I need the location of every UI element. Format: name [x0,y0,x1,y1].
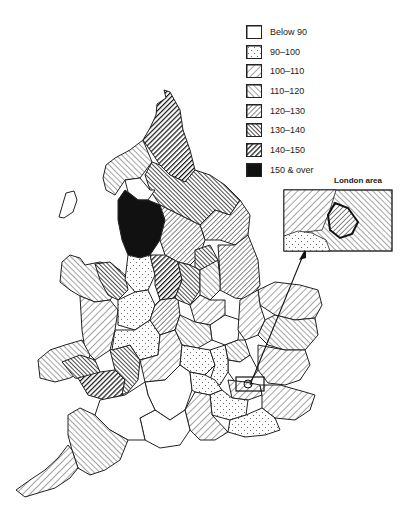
swatch-hatch-forward-dark-icon [246,143,262,157]
swatch-solid-icon [246,163,262,177]
legend-item-130-140: 130–140 [246,120,396,140]
legend-item-140-150: 140–150 [246,140,396,160]
legend-item-90-100: 90–100 [246,42,396,62]
legend-item-100-110: 100–110 [246,61,396,81]
swatch-dots-icon [246,45,262,59]
legend-item-120-130: 120–130 [246,101,396,121]
legend-label: 150 & over [270,165,314,175]
swatch-hatch-back-dense-icon [246,123,262,137]
legend-label: Below 90 [270,27,307,37]
legend: Below 90 90–100 100–110 110–120 120–130 … [246,22,396,180]
london-inset [284,190,392,251]
swatch-hatch-forward-medium-icon [246,104,262,118]
legend-item-110-120: 110–120 [246,81,396,101]
swatch-hatch-back-light-icon [246,84,262,98]
legend-label: 120–130 [270,106,305,116]
legend-item-150-over: 150 & over [246,160,396,180]
swatch-hatch-forward-light-icon [246,64,262,78]
region-lincolnshire [218,235,260,300]
swatch-blank-icon [246,25,262,39]
isle-of-man [59,191,77,218]
legend-item-below-90: Below 90 [246,22,396,42]
region-cheshire [125,255,155,292]
region-greater-london [228,380,262,400]
legend-label: 90–100 [270,47,300,57]
legend-label: 100–110 [270,66,304,76]
legend-label: 110–120 [270,86,304,96]
legend-label: 130–140 [270,125,305,135]
legend-label: 140–150 [270,145,305,155]
region-essex [258,345,310,385]
region-cornwall [16,445,78,497]
